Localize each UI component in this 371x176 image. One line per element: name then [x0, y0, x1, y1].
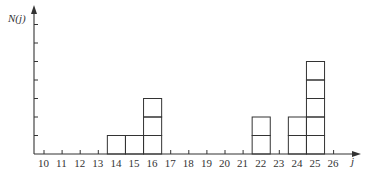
x-tick-label: 15 — [129, 157, 140, 169]
histogram-chart — [0, 0, 371, 176]
count-box — [107, 136, 125, 155]
count-box — [252, 136, 270, 155]
count-box — [306, 136, 324, 155]
x-tick-label: 13 — [92, 157, 103, 169]
x-tick-label: 19 — [201, 157, 212, 169]
count-box — [144, 99, 162, 118]
x-tick-label: 22 — [255, 157, 266, 169]
x-tick-label: 25 — [310, 157, 321, 169]
x-tick-label: 21 — [237, 157, 248, 169]
x-tick-label: 26 — [328, 157, 339, 169]
x-tick-label: 17 — [165, 157, 176, 169]
x-axis-label: j — [351, 155, 354, 167]
count-box — [288, 117, 306, 136]
x-tick-label: 14 — [110, 157, 121, 169]
y-axis-label: N(j) — [8, 12, 26, 24]
x-tick-label: 24 — [291, 157, 302, 169]
x-tick-label: 12 — [74, 157, 85, 169]
x-tick-label: 23 — [273, 157, 284, 169]
count-box — [144, 136, 162, 155]
x-tick-label: 18 — [183, 157, 194, 169]
count-box — [306, 80, 324, 99]
x-tick-label: 11 — [56, 157, 67, 169]
count-box — [125, 136, 143, 155]
count-box — [306, 99, 324, 118]
x-tick-label: 20 — [219, 157, 230, 169]
x-tick-label: 10 — [38, 157, 49, 169]
count-box — [144, 117, 162, 136]
count-box — [306, 62, 324, 81]
count-box — [252, 117, 270, 136]
count-box — [306, 117, 324, 136]
count-box — [288, 136, 306, 155]
x-tick-label: 16 — [147, 157, 158, 169]
